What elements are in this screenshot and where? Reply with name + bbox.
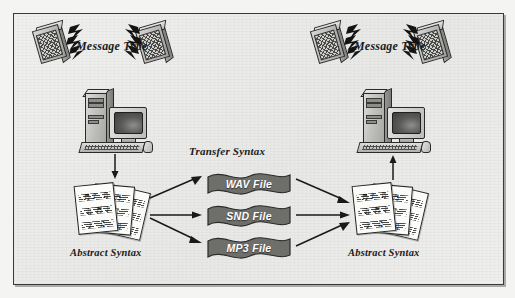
transfer-file-mp3[interactable]: MP3 File: [206, 235, 292, 261]
label-transfer-syntax: Transfer Syntax: [189, 145, 265, 157]
arrow-music-to-wav: [150, 174, 206, 200]
label-message-type-right: Message Type: [354, 39, 426, 54]
arrow-right-music-to-computer: [388, 154, 398, 180]
arrow-snd-to-music: [296, 210, 354, 220]
arrow-mp3-to-music: [296, 220, 354, 248]
label-message-type-left: Message Type: [76, 39, 148, 54]
transfer-file-wav[interactable]: WAV File: [206, 171, 292, 197]
arrow-left-computer-to-music: [110, 154, 120, 180]
speaker-icon-right-a: [311, 23, 345, 63]
sheet-music-left: ♪♫ ♯♪ ♫♪ ♪♬ ♫♪ ♪♫ ♬♪♫ ♫♬♪ ♪♫: [76, 182, 152, 238]
speaker-icon-left-a: [33, 23, 67, 63]
computer-right: [355, 93, 433, 155]
diagram-frame: Message Type ♪♫ ♯♪ ♫♪: [13, 13, 504, 285]
transfer-file-snd[interactable]: SND File: [206, 203, 292, 229]
sheet-music-right: ♪♫ ♯♪ ♫♪ ♪♬ ♫♪ ♪♫ ♬♪♫ ♫♬♪ ♪♫: [354, 182, 430, 238]
arrow-music-to-mp3: [150, 217, 206, 247]
arrow-wav-to-music: [296, 177, 354, 205]
transfer-file-wav-label: WAV File: [206, 171, 292, 197]
label-abstract-syntax-left: Abstract Syntax: [70, 247, 142, 258]
computer-left: [77, 93, 155, 155]
transfer-file-snd-label: SND File: [206, 203, 292, 229]
figure-canvas: Message Type ♪♫ ♯♪ ♫♪: [0, 0, 515, 298]
label-abstract-syntax-right: Abstract Syntax: [348, 247, 420, 258]
transfer-file-mp3-label: MP3 File: [206, 235, 292, 261]
